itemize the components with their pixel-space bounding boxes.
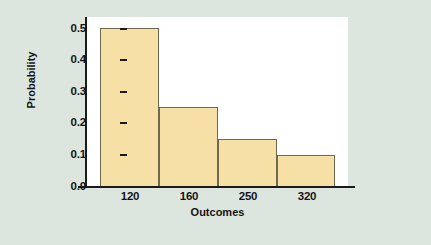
y-tick-label-0: 0.0 (58, 180, 86, 192)
y-axis-title: Probability (25, 35, 37, 125)
y-tick-mark-4 (120, 59, 127, 61)
y-tick-label-3: 0.3 (58, 85, 86, 97)
x-tick-label-250: 250 (218, 190, 278, 202)
x-axis-title: Outcomes (87, 206, 348, 218)
x-tick-label-120: 120 (100, 190, 160, 202)
bar-160[interactable] (159, 107, 218, 187)
y-tick-label-2: 0.2 (58, 116, 86, 128)
x-tick-label-320: 320 (277, 190, 337, 202)
y-tick-mark-3 (120, 91, 127, 93)
y-tick-mark-1 (120, 154, 127, 156)
y-tick-mark-0 (120, 186, 127, 188)
y-tick-label-4: 0.4 (58, 53, 86, 65)
y-tick-mark-5 (120, 28, 127, 30)
y-tick-mark-2 (120, 122, 127, 124)
y-tick-label-5: 0.5 (58, 22, 86, 34)
x-tick-label-160: 160 (159, 190, 219, 202)
bar-120[interactable] (100, 28, 159, 187)
bar-320[interactable] (277, 155, 335, 187)
y-axis-ticks: 0.0 0.1 0.2 0.3 0.4 0.5 (42, 0, 86, 245)
chart-figure: 0.0 0.1 0.2 0.3 0.4 0.5 Probability 120 … (0, 0, 431, 245)
bar-250[interactable] (218, 139, 277, 187)
y-tick-label-1: 0.1 (58, 148, 86, 160)
